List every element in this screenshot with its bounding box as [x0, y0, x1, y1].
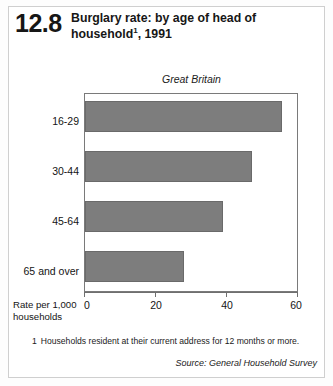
bar-30-44	[85, 151, 252, 182]
footnote-number: 1	[32, 336, 37, 346]
x-tick-label-2: 40	[221, 299, 233, 311]
bar-45-64	[85, 201, 223, 232]
chart-title-line1: Burglary rate: by age of head of	[71, 11, 256, 25]
footnote: 1Households resident at their current ad…	[32, 336, 299, 346]
bar-fill	[85, 201, 223, 232]
chart-header: 12.8 Burglary rate: by age of head of ho…	[9, 10, 321, 58]
x-tick-label-3: 60	[290, 299, 302, 311]
bar-fill	[85, 251, 184, 282]
x-axis-line	[84, 292, 298, 293]
chart-page: 12.8 Burglary rate: by age of head of ho…	[0, 0, 333, 386]
chart-title-line2: household	[71, 27, 133, 41]
source-line: Source: General Household Survey	[175, 358, 317, 368]
x-axis-title: Rate per 1,000 households	[13, 299, 85, 322]
x-axis-title-line2: households	[13, 311, 62, 322]
x-tick-1	[155, 292, 156, 297]
bar-series	[85, 94, 297, 291]
x-tick-0	[84, 292, 85, 297]
y-axis-labels: 16-29 30-44 45-64 65 and over	[0, 93, 79, 292]
x-tick-label-1: 20	[150, 299, 162, 311]
chart-title: Burglary rate: by age of head of househo…	[71, 10, 256, 42]
plot-area	[84, 93, 298, 292]
y-axis-label-1: 30-44	[0, 165, 79, 177]
y-axis-label-2: 45-64	[0, 215, 79, 227]
chart-subtitle: Great Britain	[85, 73, 298, 85]
y-axis-label-3: 65 and over	[0, 265, 79, 277]
bar-fill	[85, 151, 252, 182]
chart-number: 12.8	[9, 10, 71, 36]
chart-title-year: , 1991	[138, 27, 172, 41]
x-tick-3	[297, 292, 298, 297]
bar-65-and-over	[85, 251, 184, 282]
x-tick-2	[226, 292, 227, 297]
bar-16-29	[85, 101, 282, 132]
y-axis-label-0: 16-29	[0, 115, 79, 127]
x-axis-title-line1: Rate per 1,000	[13, 299, 76, 310]
footnote-text: Households resident at their current add…	[41, 336, 299, 346]
bar-fill	[85, 101, 282, 132]
